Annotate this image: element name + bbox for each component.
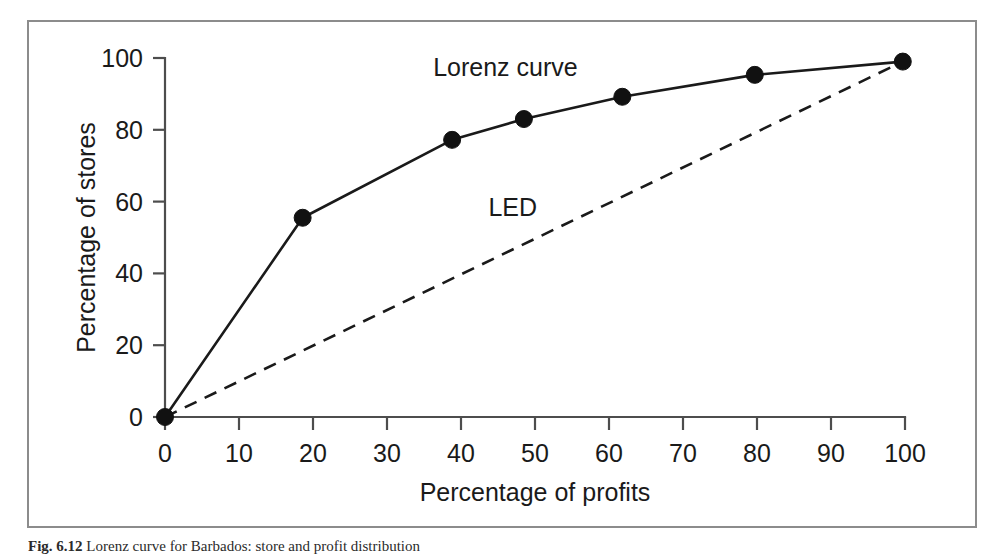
x-tick-label: 70 xyxy=(669,439,697,467)
x-tick-label: 0 xyxy=(158,439,172,467)
x-tick-label: 40 xyxy=(447,439,475,467)
data-point-marker xyxy=(614,88,631,105)
data-point-marker xyxy=(444,131,461,148)
lorenz-data-markers xyxy=(157,53,912,425)
y-axis-tick-labels: 020406080100 xyxy=(101,44,143,431)
lorenz-curve-label: Lorenz curve xyxy=(433,53,578,81)
data-point-marker xyxy=(294,209,311,226)
data-point-marker xyxy=(157,409,174,426)
x-axis-title: Percentage of profits xyxy=(420,478,651,506)
y-tick-label: 20 xyxy=(115,331,143,359)
y-tick-label: 80 xyxy=(115,116,143,144)
y-axis-title: Percentage of stores xyxy=(72,122,100,353)
data-point-marker xyxy=(746,66,763,83)
x-tick-label: 80 xyxy=(743,439,771,467)
x-axis-ticks xyxy=(165,417,905,430)
x-tick-label: 60 xyxy=(595,439,623,467)
x-axis-tick-labels: 0102030405060708090100 xyxy=(158,439,926,467)
x-tick-label: 50 xyxy=(521,439,549,467)
y-tick-label: 0 xyxy=(129,403,143,431)
data-point-marker xyxy=(515,111,532,128)
y-tick-label: 40 xyxy=(115,259,143,287)
x-tick-label: 30 xyxy=(373,439,401,467)
x-tick-label: 10 xyxy=(225,439,253,467)
y-axis-ticks xyxy=(153,58,165,417)
caption-label: Fig. 6.12 xyxy=(28,538,83,554)
chart-series xyxy=(157,53,912,425)
caption-body: Lorenz curve for Barbados: store and pro… xyxy=(86,538,420,554)
figure-caption: Fig. 6.12 Lorenz curve for Barbados: sto… xyxy=(28,538,973,555)
x-tick-label: 90 xyxy=(817,439,845,467)
led-label: LED xyxy=(488,193,537,221)
data-point-marker xyxy=(894,53,911,70)
x-tick-label: 100 xyxy=(884,439,926,467)
y-tick-label: 100 xyxy=(101,44,143,72)
lorenz-chart: 020406080100 0102030405060708090100 Perc… xyxy=(0,0,1001,557)
y-tick-label: 60 xyxy=(115,188,143,216)
led-line xyxy=(165,62,903,417)
x-tick-label: 20 xyxy=(299,439,327,467)
figure-root: 020406080100 0102030405060708090100 Perc… xyxy=(0,0,1001,557)
